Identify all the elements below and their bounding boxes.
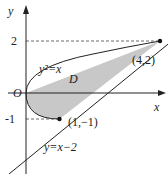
point-upper-label: (4,2) [132, 53, 155, 67]
region-diagram: y x O 2 -1 y²=x D (4,2) (1,−1) y=x−2 [0, 0, 168, 174]
point-lower-marker [57, 117, 61, 121]
region-label: D [68, 72, 78, 86]
tick-label-2: 2 [11, 34, 17, 48]
origin-label: O [13, 86, 22, 100]
y-axis-label: y [7, 4, 14, 18]
parabola-label: y²=x [38, 62, 62, 76]
line-label: y=x−2 [43, 140, 77, 154]
x-axis-arrow-icon [158, 90, 166, 96]
y-axis-arrow-icon [23, 5, 29, 14]
point-upper-marker [158, 39, 162, 43]
tick-label-neg1: -1 [5, 112, 15, 126]
x-axis-label: x [153, 100, 160, 114]
point-lower-label: (1,−1) [68, 115, 98, 129]
